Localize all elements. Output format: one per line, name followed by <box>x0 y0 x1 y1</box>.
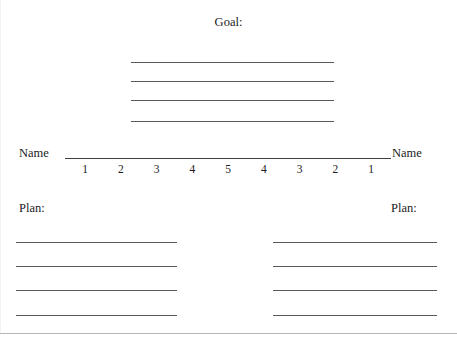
worksheet-page: Goal: Name Name 123454321 Plan: Plan: <box>0 0 457 351</box>
name-right-label: Name <box>392 147 422 160</box>
bottom-divider <box>0 333 457 334</box>
scale-number-1: 1 <box>79 164 91 176</box>
plan-right-write-line-4[interactable] <box>273 315 437 316</box>
scale-number-8: 2 <box>329 164 341 176</box>
plan-right-label: Plan: <box>391 202 417 215</box>
name-underline-field[interactable] <box>65 158 391 159</box>
plan-left-label: Plan: <box>19 202 45 215</box>
plan-left-write-line-2[interactable] <box>16 266 177 267</box>
scale-number-7: 3 <box>294 164 306 176</box>
scale-number-row: 123454321 <box>65 164 391 176</box>
scale-number-6: 4 <box>258 164 270 176</box>
page-edge-left <box>0 0 1 333</box>
goal-write-line-2[interactable] <box>131 81 334 82</box>
goal-write-line-1[interactable] <box>131 62 334 63</box>
plan-left-write-line-1[interactable] <box>16 242 177 243</box>
scale-number-9: 1 <box>365 164 377 176</box>
plan-right-write-line-1[interactable] <box>273 242 437 243</box>
scale-number-3: 3 <box>151 164 163 176</box>
scale-number-2: 2 <box>115 164 127 176</box>
plan-left-write-line-4[interactable] <box>16 315 177 316</box>
name-left-label: Name <box>19 147 49 160</box>
scale-number-4: 4 <box>186 164 198 176</box>
plan-right-write-line-3[interactable] <box>273 290 437 291</box>
plan-left-write-line-3[interactable] <box>16 290 177 291</box>
plan-right-write-line-2[interactable] <box>273 266 437 267</box>
goal-label: Goal: <box>0 16 457 29</box>
scale-number-5: 5 <box>222 164 234 176</box>
goal-write-line-4[interactable] <box>131 121 334 122</box>
goal-write-line-3[interactable] <box>131 100 334 101</box>
